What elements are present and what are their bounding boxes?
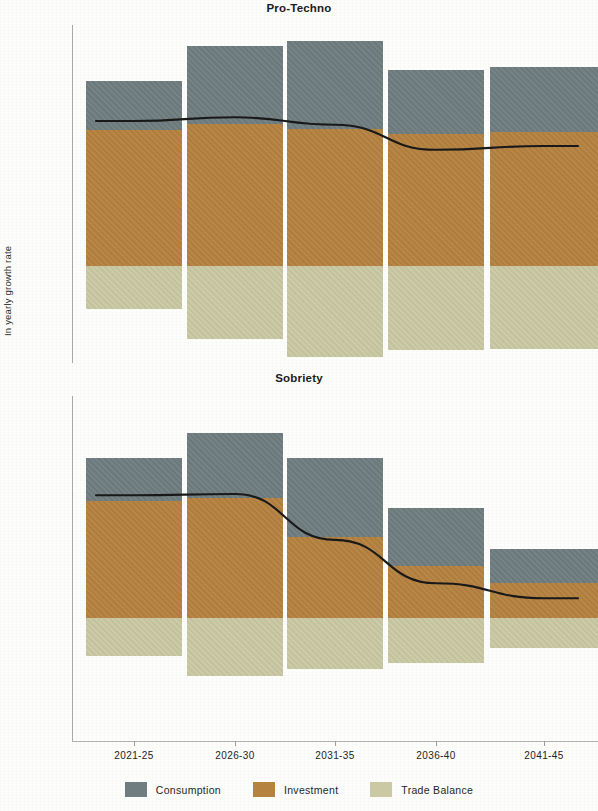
plot-area-0: 0.0%1.0% [72, 25, 598, 363]
legend-item-trade-balance[interactable]: Trade Balance [370, 782, 473, 797]
x-tick-label-2: 2031-35 [315, 750, 355, 761]
legend-swatch-icon-1 [253, 782, 275, 797]
chart-panel-sobriety: Sobriety 0.0%1.0% [0, 378, 598, 756]
x-tick-label-0: 2021-25 [114, 750, 154, 761]
x-tick-2 [335, 741, 336, 746]
x-tick-3 [436, 741, 437, 746]
legend-label-0: Consumption [156, 784, 221, 796]
x-axis: 2021-252026-302031-352036-402041-45 [72, 741, 598, 742]
chart-title-1: Sobriety [0, 372, 598, 384]
plot-area-1: 0.0%1.0% [72, 396, 598, 741]
legend-swatch-icon-2 [370, 782, 392, 797]
legend-item-investment[interactable]: Investment [253, 782, 338, 797]
x-tick-4 [544, 741, 545, 746]
chart-title-0: Pro-Techno [0, 2, 598, 14]
x-tick-label-4: 2041-45 [524, 750, 564, 761]
legend-label-1: Investment [284, 784, 338, 796]
legend-label-2: Trade Balance [401, 784, 473, 796]
x-tick-1 [235, 741, 236, 746]
total-growth-line-1 [72, 396, 598, 741]
x-tick-0 [134, 741, 135, 746]
legend-swatch-icon-0 [125, 782, 147, 797]
legend: ConsumptionInvestmentTrade Balance [0, 782, 598, 797]
chart-panel-pro-techno: Pro-Techno 0.0%1.0% [0, 0, 598, 378]
x-tick-label-1: 2026-30 [215, 750, 255, 761]
total-growth-line-0 [72, 25, 598, 363]
x-tick-label-3: 2036-40 [416, 750, 456, 761]
figure: In yearly growth rate Pro-Techno 0.0%1.0… [0, 0, 598, 811]
legend-item-consumption[interactable]: Consumption [125, 782, 221, 797]
